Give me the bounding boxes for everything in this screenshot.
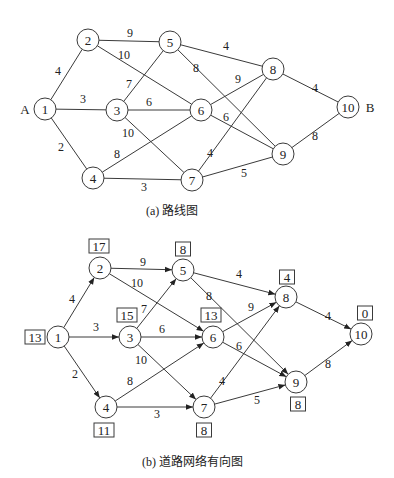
edge-weight-label: 3: [141, 180, 147, 194]
edge-weight-label: 9: [248, 300, 254, 314]
edge-weight-label: 10: [135, 353, 147, 367]
edge-weight-label: 4: [69, 292, 75, 306]
edge-weight-label: 3: [154, 407, 160, 421]
edge-weight-label: 9: [140, 255, 146, 269]
edge-weight-label: 4: [236, 267, 242, 281]
node-label: 1: [55, 330, 62, 345]
edge-weight-label: 4: [207, 146, 213, 160]
node-label: 2: [97, 261, 104, 276]
edge-1-3: [56, 109, 106, 110]
node-value-label: 8: [201, 423, 208, 438]
edge-4-6: [115, 343, 204, 401]
node-label: 6: [198, 103, 205, 118]
node-label: 5: [167, 35, 174, 50]
edge-weight-label: 10: [122, 126, 134, 140]
node-value-label: 15: [121, 308, 134, 323]
node-value-label: 8: [295, 397, 302, 412]
node-label: 10: [355, 327, 368, 342]
route-map-graph: 4329107610834896454812345678910AB: [20, 26, 374, 194]
edge-weight-label: 8: [127, 374, 133, 388]
edge-weight-label: 2: [72, 367, 78, 381]
node-value-label: 13: [29, 330, 42, 345]
node-label: 8: [270, 62, 277, 77]
edge-weight-label: 9: [127, 26, 133, 40]
edge-weight-label: 4: [325, 309, 331, 323]
edge-weight-label: 8: [325, 357, 331, 371]
edge-weight-label: 8: [206, 289, 212, 303]
node-label: 5: [180, 263, 187, 278]
node-label: 4: [103, 400, 110, 415]
edge-weight-label: 8: [193, 61, 199, 75]
end-label: B: [366, 100, 375, 115]
edge-weight-label: 4: [219, 374, 225, 388]
edge-2-6: [109, 274, 203, 332]
node-value-label: 11: [98, 423, 111, 438]
route-map-caption: (a) 路线图: [146, 201, 198, 219]
node-value-label: 17: [93, 239, 107, 254]
edge-8-10: [296, 302, 351, 329]
edge-weight-label: 3: [93, 320, 99, 334]
node-label: 7: [189, 173, 196, 188]
edge-weight-label: 6: [223, 110, 229, 124]
directed-road-network-graph: 4329107610834896454811321731541158613788…: [25, 239, 373, 438]
edge-weight-label: 3: [80, 92, 86, 106]
edge-weight-label: 8: [114, 147, 120, 161]
edge-weight-label: 9: [235, 72, 241, 86]
edge-weight-label: 8: [312, 129, 318, 143]
edge-weight-label: 5: [254, 393, 260, 407]
edge-weight-label: 7: [126, 77, 132, 91]
edge-1-4: [64, 346, 100, 398]
edge-6-9: [223, 342, 287, 377]
edge-7-9: [203, 157, 273, 177]
edge-weight-label: 7: [141, 302, 147, 316]
node-label: 1: [42, 102, 49, 117]
edge-6-9: [211, 115, 274, 149]
node-value-label: 0: [362, 306, 369, 321]
edge-1-4: [51, 118, 86, 169]
node-label: 10: [342, 100, 355, 115]
edge-weight-label: 10: [118, 48, 130, 62]
node-label: 3: [127, 330, 134, 345]
edge-8-10: [283, 74, 338, 102]
edge-7-9: [215, 385, 286, 404]
node-label: 8: [283, 290, 290, 305]
node-label: 4: [90, 171, 97, 186]
edge-weight-label: 6: [146, 95, 152, 109]
edge-weight-label: 6: [159, 322, 165, 336]
node-label: 9: [280, 147, 287, 162]
edge-weight-label: 4: [55, 64, 61, 78]
edge-weight-label: 10: [131, 276, 143, 290]
node-value-label: 13: [205, 308, 218, 323]
edge-2-5: [99, 40, 159, 41]
edge-weight-label: 5: [241, 166, 247, 180]
node-label: 7: [201, 400, 208, 415]
node-label: 9: [293, 375, 300, 390]
directed-graph-caption: (b) 道路网络有向图: [142, 452, 243, 470]
road-network-diagram: 4329107610834896454812345678910AB 432910…: [0, 0, 394, 478]
node-label: 3: [114, 103, 121, 118]
start-label: A: [20, 102, 30, 117]
node-value-label: 8: [180, 242, 187, 257]
edge-weight-label: 4: [312, 81, 318, 95]
node-value-label: 4: [284, 270, 291, 285]
edge-weight-label: 6: [236, 339, 242, 353]
edge-4-6: [102, 116, 191, 172]
edge-weight-label: 4: [223, 39, 229, 53]
node-label: 2: [85, 33, 92, 48]
node-label: 6: [210, 330, 217, 345]
edge-weight-label: 2: [58, 140, 64, 154]
